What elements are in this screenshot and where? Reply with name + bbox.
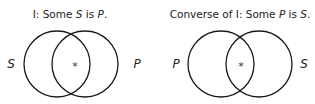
right-circle — [52, 31, 118, 97]
diagram-title: Converse of I: Some P is S. — [170, 8, 311, 20]
asterisk-marker: * — [72, 60, 78, 73]
left-label: S — [7, 57, 15, 71]
venn-diagrams: I: Some S is P. S P * Converse of I: Som… — [0, 0, 315, 104]
asterisk-marker: * — [238, 60, 244, 73]
left-circle — [188, 31, 254, 97]
left-label: P — [172, 57, 180, 71]
right-circle — [226, 31, 292, 97]
venn-diagram-converse-i: Converse of I: Some P is S. P S * — [170, 8, 311, 97]
diagram-title: I: Some S is P. — [33, 8, 108, 20]
right-label: P — [133, 57, 141, 71]
venn-diagram-i: I: Some S is P. S P * — [7, 8, 141, 97]
left-circle — [24, 31, 90, 97]
right-label: S — [300, 57, 308, 71]
